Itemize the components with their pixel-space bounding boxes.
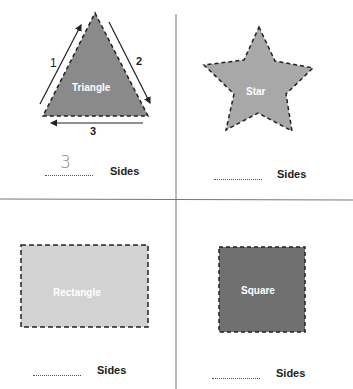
triangle-sides-label: Sides <box>110 165 139 177</box>
side-2-number: 2 <box>136 55 142 67</box>
triangle-answer-field[interactable] <box>45 175 93 176</box>
rectangle-answer-field[interactable] <box>33 375 81 376</box>
star-answer-field[interactable] <box>214 179 262 180</box>
square-label: Square <box>241 285 275 296</box>
rectangle-shape <box>21 245 148 327</box>
horizontal-divider <box>0 199 353 200</box>
star-shape <box>204 27 313 131</box>
star-sides-label: Sides <box>277 168 306 180</box>
square-sides-label: Sides <box>276 367 305 379</box>
square-answer-field[interactable] <box>212 378 260 379</box>
triangle-label: Triangle <box>72 82 110 93</box>
rectangle-sides-label: Sides <box>97 364 126 376</box>
side-1-number: 1 <box>50 56 57 70</box>
side-3-number: 3 <box>90 125 96 137</box>
triangle-answer: 3 <box>60 152 71 172</box>
rectangle-label: Rectangle <box>53 287 101 298</box>
triangle-shape <box>43 13 148 116</box>
star-label: Star <box>246 86 265 97</box>
